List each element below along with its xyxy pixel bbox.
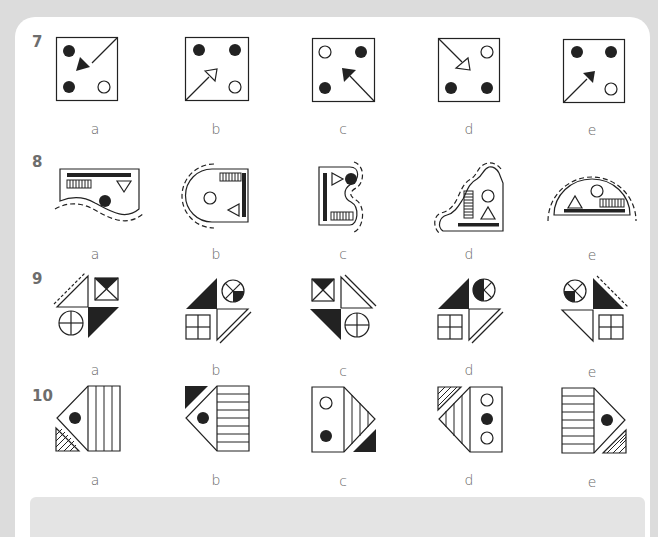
q8-option-a-figure[interactable] (55, 167, 145, 227)
question-number-9: 9 (32, 270, 42, 288)
answer-panel (30, 497, 645, 537)
q7-label-b: b (196, 121, 236, 137)
q10-label-d: d (449, 472, 489, 488)
q9-label-e: e (572, 364, 612, 380)
q10-label-e: e (572, 474, 612, 490)
q8-option-e-figure[interactable] (548, 175, 636, 223)
q7-label-c: c (323, 121, 363, 137)
q9-label-c: c (323, 363, 363, 379)
q10-label-b: b (196, 472, 236, 488)
q9-option-b-figure[interactable] (185, 277, 251, 343)
q8-label-b: b (196, 246, 236, 262)
q9-label-d: d (449, 362, 489, 378)
q7-option-c-figure[interactable] (312, 38, 375, 102)
q7-label-a: a (75, 121, 115, 137)
q10-option-e-figure[interactable] (561, 387, 627, 455)
question-number-10: 10 (32, 387, 53, 405)
q9-label-b: b (196, 362, 236, 378)
q7-option-b-figure[interactable] (185, 37, 249, 101)
q7-option-d-figure[interactable] (438, 38, 500, 102)
q10-option-a-figure[interactable] (55, 385, 121, 453)
question-number-7: 7 (32, 33, 42, 51)
q9-label-a: a (75, 362, 115, 378)
q8-label-e: e (572, 247, 612, 263)
q10-label-c: c (323, 473, 363, 489)
q8-option-c-figure[interactable] (318, 162, 370, 232)
q9-option-e-figure[interactable] (562, 277, 628, 343)
q7-label-d: d (449, 121, 489, 137)
q7-option-a-figure[interactable] (56, 37, 118, 101)
q9-option-d-figure[interactable] (437, 277, 503, 343)
q10-option-c-figure[interactable] (311, 386, 377, 454)
q7-option-e-figure[interactable] (563, 39, 625, 103)
q10-option-d-figure[interactable] (437, 386, 503, 454)
q10-label-a: a (75, 472, 115, 488)
q8-label-a: a (75, 246, 115, 262)
q9-option-a-figure[interactable] (56, 275, 122, 341)
q7-label-e: e (572, 122, 612, 138)
q10-option-b-figure[interactable] (184, 385, 250, 453)
q8-option-b-figure[interactable] (182, 164, 252, 230)
question-number-8: 8 (32, 153, 42, 171)
q8-label-d: d (449, 246, 489, 262)
q9-option-c-figure[interactable] (310, 276, 376, 342)
q8-option-d-figure[interactable] (433, 161, 505, 235)
q8-label-c: c (323, 246, 363, 262)
